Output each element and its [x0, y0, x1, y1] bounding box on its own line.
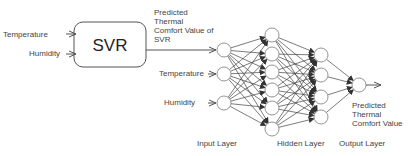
output-node: [352, 78, 366, 92]
connection: [278, 75, 314, 93]
connection: [326, 90, 353, 113]
hidden-node: [314, 110, 328, 124]
connection: [328, 77, 352, 83]
connection: [278, 101, 315, 125]
ann-output-label: Predicted Thermal Comfort Value: [352, 101, 403, 128]
connection: [276, 40, 316, 91]
connection: [231, 92, 265, 101]
hybrid-svr-ann-diagram: SVR Temperature Humidity Predicted Therm…: [0, 0, 419, 156]
svr-input-humidity: Humidity: [29, 49, 60, 58]
svg-text:Comfort Value: Comfort Value: [352, 119, 403, 128]
hidden-node: [265, 83, 279, 97]
svr-block: SVR: [74, 22, 146, 67]
connection: [279, 119, 314, 128]
svg-text:SVR: SVR: [154, 35, 171, 44]
svg-text:Predicted: Predicted: [154, 8, 188, 17]
input-node: [217, 96, 231, 110]
svg-text:Predicted: Predicted: [352, 101, 386, 110]
hidden-node: [265, 28, 279, 42]
connection: [276, 61, 317, 123]
connection: [231, 72, 265, 73]
svg-text:Thermal: Thermal: [352, 110, 382, 119]
connection: [231, 37, 265, 48]
hidden-node: [314, 68, 328, 82]
connection: [229, 79, 267, 123]
ann-input-temperature: Temperature: [159, 69, 204, 78]
svr-label: SVR: [93, 36, 128, 55]
hidden-node: [265, 122, 279, 136]
hidden-node: [265, 101, 279, 115]
ann-input-humidity: Humidity: [164, 98, 195, 107]
svg-text:Comfort Value of: Comfort Value of: [154, 26, 214, 35]
connection: [231, 104, 265, 107]
svr-output-label: Predicted Thermal Comfort Value of SVR: [154, 8, 214, 44]
hidden-node: [265, 47, 279, 61]
ann-connections: [228, 37, 354, 127]
output-layer-label: Output Layer: [339, 139, 386, 148]
input-node: [217, 67, 231, 81]
svg-text:Thermal: Thermal: [154, 17, 184, 26]
svr-input-temperature: Temperature: [3, 30, 48, 39]
hidden-layer-label: Hidden Layer: [277, 139, 325, 148]
input-layer-label: Input Layer: [197, 139, 237, 148]
input-node: [217, 43, 231, 57]
hidden-node: [314, 48, 328, 62]
hidden-node: [314, 90, 328, 104]
hidden-node: [265, 65, 279, 79]
